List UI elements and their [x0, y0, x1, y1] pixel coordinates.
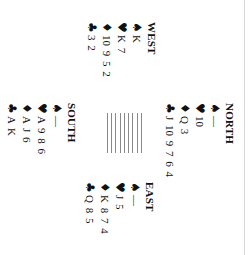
diamond-icon: ♦ — [99, 22, 114, 35]
heart-icon: ♥ — [112, 182, 127, 195]
suit-row-clubs: ♣ J 10 9 7 6 4 — [162, 103, 177, 177]
heart-icon: ♥ — [192, 103, 207, 116]
scan-edge-line — [244, 0, 245, 255]
suit-row-spades: ♠ — — [127, 182, 142, 234]
hand-label: SOUTH — [64, 103, 79, 154]
spade-icon: ♠ — [129, 22, 144, 35]
table-line — [107, 113, 108, 153]
cards: — — [207, 116, 222, 127]
cards: A J 6 — [19, 116, 34, 143]
cards: — — [49, 116, 64, 127]
diamond-icon: ♦ — [19, 103, 34, 116]
suit-row-hearts: ♥ 10 — [192, 103, 207, 177]
spade-icon: ♠ — [127, 182, 142, 195]
suit-row-clubs: ♣ A K — [4, 103, 19, 154]
cards: 3 2 — [84, 35, 99, 51]
suit-row-spades: ♠ — — [49, 103, 64, 154]
table-line — [137, 113, 138, 153]
table-line — [115, 113, 116, 153]
table-center — [106, 113, 142, 153]
diamond-icon: ♦ — [177, 103, 192, 116]
table-line — [141, 113, 142, 153]
hand-south: SOUTH ♠ — ♥ A 9 8 6 ♦ A J 6 ♣ A K — [4, 103, 79, 154]
hand-north: NORTH ♠ — ♥ 10 ♦ Q 3 ♣ J 10 9 7 6 4 — [162, 103, 237, 177]
suit-row-diamonds: ♦ 10 9 5 2 — [99, 22, 114, 77]
cards: J 10 9 7 6 4 — [162, 116, 177, 177]
hand-east: EAST ♠ — ♥ J 5 ♦ K 8 7 4 ♣ Q 8 5 — [82, 182, 157, 234]
club-icon: ♣ — [84, 22, 99, 35]
cards: Q 8 5 — [82, 195, 97, 223]
club-icon: ♣ — [82, 182, 97, 195]
table-line — [124, 113, 125, 153]
table-line — [132, 113, 133, 153]
cards: — — [127, 195, 142, 206]
hand-label: WEST — [144, 22, 159, 77]
diamond-icon: ♦ — [97, 182, 112, 195]
cards: 10 — [192, 116, 207, 127]
suit-row-diamonds: ♦ K 8 7 4 — [97, 182, 112, 234]
cards: K — [129, 35, 144, 43]
heart-icon: ♥ — [114, 22, 129, 35]
cards: 10 9 5 2 — [99, 35, 114, 77]
club-icon: ♣ — [4, 103, 19, 116]
suit-row-diamonds: ♦ A J 6 — [19, 103, 34, 154]
suit-row-spades: ♠ K — [129, 22, 144, 77]
club-icon: ♣ — [162, 103, 177, 116]
suit-row-spades: ♠ — — [207, 103, 222, 177]
cards: A K — [4, 116, 19, 136]
table-line — [120, 113, 121, 153]
spade-icon: ♠ — [207, 103, 222, 116]
suit-row-hearts: ♥ K 7 — [114, 22, 129, 77]
cards: Q 3 — [177, 116, 192, 134]
suit-row-clubs: ♣ Q 8 5 — [82, 182, 97, 234]
suit-row-diamonds: ♦ Q 3 — [177, 103, 192, 177]
suit-row-clubs: ♣ 3 2 — [84, 22, 99, 77]
spade-icon: ♠ — [49, 103, 64, 116]
hand-label: NORTH — [222, 103, 237, 177]
cards: K 7 — [114, 35, 129, 53]
table-line — [111, 113, 112, 153]
suit-row-hearts: ♥ J 5 — [112, 182, 127, 234]
cards: J 5 — [112, 195, 127, 210]
bridge-diagram: NORTH ♠ — ♥ 10 ♦ Q 3 ♣ J 10 9 7 6 4 WEST… — [0, 0, 249, 255]
cards: K 8 7 4 — [97, 195, 112, 234]
cards: A 9 8 6 — [34, 116, 49, 154]
hand-west: WEST ♠ K ♥ K 7 ♦ 10 9 5 2 ♣ 3 2 — [84, 22, 159, 77]
table-line — [128, 113, 129, 153]
suit-row-hearts: ♥ A 9 8 6 — [34, 103, 49, 154]
heart-icon: ♥ — [34, 103, 49, 116]
hand-label: EAST — [142, 182, 157, 234]
